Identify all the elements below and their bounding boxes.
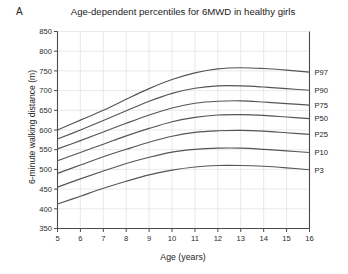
percentile-curve-p97 xyxy=(58,68,310,130)
percentile-curve-p3 xyxy=(58,165,310,204)
x-tick-label: 9 xyxy=(147,234,151,243)
series-label-p10: P10 xyxy=(315,148,329,157)
y-tick-label: 850 xyxy=(39,27,52,36)
series-label-p3: P3 xyxy=(315,166,324,175)
series-labels: P97P90P75P50P25P10P3 xyxy=(315,68,329,175)
x-tick-label: 11 xyxy=(191,234,199,243)
series-label-p25: P25 xyxy=(315,130,329,139)
percentile-line-chart: 350400450500550600650700750800850 567891… xyxy=(0,0,348,274)
series-label-p90: P90 xyxy=(315,86,329,95)
x-tick-label: 14 xyxy=(259,234,267,243)
series-label-p75: P75 xyxy=(315,101,329,110)
percentile-curve-p10 xyxy=(58,148,310,187)
x-tick-label: 6 xyxy=(78,234,82,243)
x-tick-label: 10 xyxy=(168,234,176,243)
y-tick-label: 750 xyxy=(39,67,52,76)
percentile-curves xyxy=(58,68,310,204)
x-tick-labels: 5678910111213141516 xyxy=(55,234,313,243)
figure-panel: A Age-dependent percentiles for 6MWD in … xyxy=(0,0,348,274)
x-tick-label: 5 xyxy=(55,234,59,243)
percentile-curve-p50 xyxy=(58,115,310,161)
y-tick-label: 600 xyxy=(39,126,52,135)
x-tick-label: 7 xyxy=(101,234,105,243)
x-tick-label: 15 xyxy=(282,234,290,243)
x-tick-label: 12 xyxy=(214,234,222,243)
grid-lines xyxy=(58,32,310,229)
y-tick-label: 500 xyxy=(39,165,52,174)
x-tick-label: 16 xyxy=(305,234,313,243)
percentile-curve-p90 xyxy=(58,86,310,139)
y-tick-label: 400 xyxy=(39,205,52,214)
y-tick-label: 550 xyxy=(39,145,52,154)
y-tick-label: 650 xyxy=(39,106,52,115)
series-label-p97: P97 xyxy=(315,68,329,77)
x-tick-label: 13 xyxy=(237,234,245,243)
y-tick-label: 700 xyxy=(39,86,52,95)
y-tick-label: 350 xyxy=(39,224,52,233)
x-tick-label: 8 xyxy=(124,234,128,243)
y-tick-label: 450 xyxy=(39,185,52,194)
y-tick-label: 800 xyxy=(39,47,52,56)
y-tick-labels: 350400450500550600650700750800850 xyxy=(39,27,52,233)
percentile-curve-p75 xyxy=(58,101,310,149)
series-label-p50: P50 xyxy=(315,114,329,123)
